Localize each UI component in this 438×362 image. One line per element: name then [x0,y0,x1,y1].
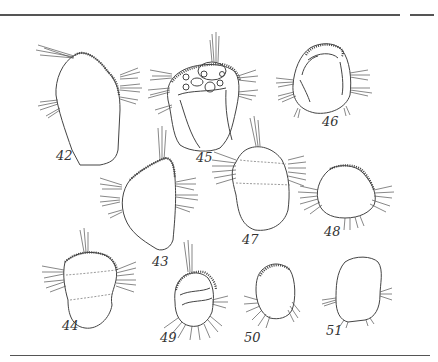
figure-48-organism [298,165,394,230]
figures-drawing [0,0,438,362]
figure-label-43: 43 [152,254,169,269]
figure-label-44: 44 [62,318,79,333]
figure-label-46: 46 [322,114,339,129]
figure-42-organism [36,45,142,165]
figure-47-organism [212,116,306,230]
figure-label-49: 49 [160,330,177,345]
figure-label-45: 45 [196,150,213,165]
figure-50-organism [244,264,300,328]
illustration-plate: 42 45 46 43 47 48 44 49 50 51 [0,0,438,362]
figure-51-organism [322,257,392,328]
figure-label-50: 50 [244,330,261,345]
figure-label-48: 48 [324,224,341,239]
figure-46-organism [276,44,372,118]
figure-label-47: 47 [242,232,259,247]
figure-43-organism [100,126,198,250]
figure-44-organism [42,228,136,328]
figure-45-organism [148,32,258,151]
figure-49-organism [164,240,228,340]
figure-label-42: 42 [56,148,73,163]
figure-label-51: 51 [326,323,343,338]
